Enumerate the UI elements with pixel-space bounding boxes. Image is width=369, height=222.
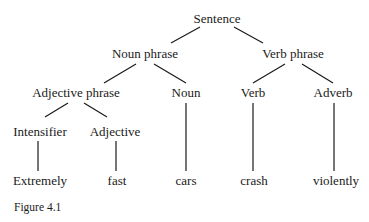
figure-caption: Figure 4.1 [14, 201, 61, 213]
tree-edges [0, 0, 369, 222]
tree-edge-adjp-adj [84, 103, 107, 117]
tree-node-np: Noun phrase [112, 47, 178, 61]
tree-node-int: Intensifier [13, 125, 66, 139]
tree-node-v: Verb [241, 86, 266, 100]
tree-node-vp: Verb phrase [262, 47, 324, 61]
tree-node-n: Noun [172, 86, 201, 100]
tree-node-adjp: Adjective phrase [32, 86, 120, 100]
tree-edge-vp-v [253, 64, 285, 83]
tree-edge-s-np [171, 27, 200, 43]
tree-edge-np-adjp [104, 64, 136, 83]
tree-edge-np-n [154, 64, 186, 83]
tree-node-w5: violently [313, 174, 359, 188]
tree-node-w1: Extremely [13, 174, 67, 188]
tree-node-adj: Adjective [90, 125, 141, 139]
tree-node-w4: crash [240, 174, 267, 188]
tree-node-w2: fast [108, 174, 127, 188]
tree-edge-s-vp [234, 27, 263, 43]
tree-node-w3: cars [176, 174, 197, 188]
tree-edge-adjp-int [45, 103, 68, 117]
tree-edge-vp-adv [302, 64, 333, 83]
tree-node-s: Sentence [194, 12, 241, 26]
tree-node-adv: Adverb [314, 86, 353, 100]
